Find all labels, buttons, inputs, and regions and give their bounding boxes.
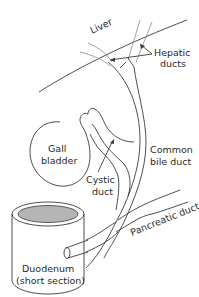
cystic-arrowhead [110,139,114,144]
hepatic-arrow-line-1 [110,54,152,60]
label-hepatic-ducts-2: ducts [160,58,186,69]
duct-stub-opening [64,248,70,259]
duct-stub-bottom [68,252,88,258]
label-liver: Liver [88,16,114,36]
label-duodenum-2: (short section) [16,275,85,286]
duodenum-lumen [18,206,78,223]
gall-bladder-outline [30,108,134,186]
label-common-bile-duct-2: bile duct [150,156,191,167]
hepatic-arrowhead-1 [110,58,115,63]
cystic-duct-outer [90,134,119,210]
label-gall-bladder-1: Gall [48,143,66,154]
hepatic-junction [120,62,126,68]
cystic-arrow-line [98,142,112,172]
biliary-diagram: Liver Hepatic ducts Gall bladder Cystic … [0,0,199,297]
label-gall-bladder-2: bladder [41,155,77,166]
label-cystic-duct-2: duct [92,186,113,197]
label-common-bile-duct-1: Common [150,144,193,155]
label-hepatic-ducts-1: Hepatic [154,47,190,58]
label-cystic-duct-1: Cystic [86,174,115,185]
duct-stub-top [66,240,88,248]
label-duodenum-1: Duodenum [22,263,74,274]
